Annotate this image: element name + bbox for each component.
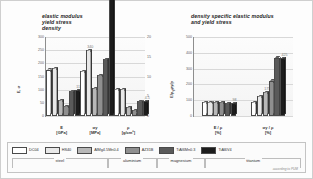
bar	[80, 71, 85, 116]
legend-material-group-label: magnesium	[169, 158, 193, 163]
y-axis-tick: 0	[42, 114, 44, 118]
bar	[120, 89, 125, 116]
x-axis-label: E / ρ [%]	[193, 125, 243, 135]
x-axis-label: E [GPa]	[45, 125, 78, 135]
bar	[114, 89, 119, 116]
legend-label: TiAl6Mn0.3	[176, 148, 195, 152]
bar-groups: 1133408904.5	[46, 37, 145, 116]
legend: DC04HS40AlMg4.5Mn0.4AZ31BTiAl6Mn0.3TiAl6…	[7, 142, 306, 173]
bar-group: 340890	[80, 37, 114, 116]
bar-value-label: 340	[87, 45, 93, 49]
bar	[97, 75, 102, 116]
source-note: according to PUM	[273, 167, 298, 171]
bar-value-label: 425	[282, 53, 288, 57]
x-axis-labels-right: E / ρ [%]σy / ρ [%]	[193, 125, 293, 135]
legend-swatch	[125, 147, 140, 153]
bar	[202, 102, 207, 116]
legend-label: AlMg4.5Mn0.4	[94, 148, 118, 152]
bar	[219, 102, 224, 116]
bar	[52, 68, 57, 116]
legend-item[interactable]: TiAl6Mn0.3	[159, 147, 195, 153]
legend-swatch	[201, 147, 216, 153]
bar: 175	[263, 92, 268, 116]
bar	[257, 96, 262, 116]
bar-value-label: 98	[232, 97, 236, 101]
bar: 4.5	[143, 101, 148, 116]
bar: 340	[86, 50, 91, 116]
y-axis-tick: 500	[186, 35, 192, 39]
figure-container: elastic modulus yield stress density den…	[0, 0, 313, 179]
legend-item[interactable]: HS40	[45, 147, 72, 153]
legend-item[interactable]: DC04	[12, 147, 39, 153]
y-axis-title-left: E, σ	[16, 86, 21, 94]
bar	[274, 58, 279, 116]
bar	[46, 70, 51, 116]
legend-item[interactable]: AlMg4.5Mn0.4	[77, 147, 118, 153]
y-axis-tick: 250	[38, 48, 44, 52]
plot-area-left: 300250200150100500201510501133408904.5	[45, 37, 145, 117]
y-axis-tick: 150	[38, 75, 44, 79]
bar	[207, 102, 212, 116]
y-axis-tick: 50	[40, 101, 44, 105]
x-axis-label: ρ [g/cm³]	[112, 125, 145, 135]
legend-swatch	[45, 147, 60, 153]
bar	[92, 88, 97, 116]
bar-group: 98	[194, 37, 244, 116]
bar	[63, 106, 68, 116]
bar	[132, 110, 137, 116]
bar	[58, 100, 63, 116]
bar	[126, 107, 131, 116]
y-axis-title-right: E/ρ, σy/ρ	[169, 81, 174, 98]
legend-items: DC04HS40AlMg4.5Mn0.4AZ31BTiAl6Mn0.3TiAl6…	[12, 146, 301, 155]
chart-panel-left: E, σ ρ 300250200150100500201510501133408…	[19, 31, 159, 143]
y-axis-tick: 300	[186, 67, 192, 71]
bar-value-label: 4.5	[145, 95, 150, 99]
legend-label: DC04	[29, 148, 39, 152]
plot-area-right: 500400300200100098175425	[193, 37, 293, 117]
y-axis-tick: 200	[186, 82, 192, 86]
y-axis-tick: 400	[186, 51, 192, 55]
bar	[103, 59, 108, 116]
legend-swatch	[12, 147, 27, 153]
bar	[225, 103, 230, 116]
bar: 98	[231, 103, 236, 116]
x-axis-label: σy / ρ [%]	[243, 125, 293, 135]
legend-material-group-label: steel	[54, 158, 65, 163]
bar-group: 113	[46, 37, 80, 116]
bar	[137, 101, 142, 116]
legend-label: TiAl6V4	[218, 148, 231, 152]
bar-group: 4.5	[114, 37, 148, 116]
y-axis-tick: 0	[190, 114, 192, 118]
legend-material-group: magnesium	[157, 158, 206, 168]
legend-swatch	[159, 147, 174, 153]
legend-swatch	[77, 147, 92, 153]
bar-groups: 98175425	[194, 37, 293, 116]
bar	[269, 81, 274, 116]
legend-item[interactable]: AZ31B	[125, 147, 154, 153]
y-axis-tick: 100	[186, 98, 192, 102]
chart-title-right: density specific elastic modulus and yie…	[191, 13, 274, 25]
legend-material-group-label: aluminium	[121, 158, 142, 163]
legend-material-group: aluminium	[108, 158, 157, 168]
legend-material-groups: steelaluminiummagnesiumtitanium	[12, 158, 301, 168]
legend-item[interactable]: TiAl6V4	[201, 147, 231, 153]
chart-panel-right: E/ρ, σy/ρ 500400300200100098175425 E / ρ…	[167, 31, 307, 143]
legend-label: HS40	[62, 148, 72, 152]
x-axis-labels-left: E [GPa]σy [MPa]ρ [g/cm³]	[45, 125, 145, 135]
bar	[251, 102, 256, 116]
y-axis-tick: 200	[38, 61, 44, 65]
bar	[69, 91, 74, 116]
y-axis-tick: 100	[38, 88, 44, 92]
bar-group: 175425	[244, 37, 294, 116]
chart-title-left: elastic modulus yield stress density	[42, 13, 83, 32]
bar	[213, 102, 218, 116]
gridline	[46, 116, 145, 117]
y-axis-tick: 300	[38, 35, 44, 39]
legend-label: AZ31B	[142, 148, 154, 152]
legend-material-group-label: titanium	[245, 158, 262, 163]
x-axis-label: σy [MPa]	[78, 125, 111, 135]
bar: 425	[280, 58, 285, 116]
legend-material-group: steel	[12, 158, 108, 168]
